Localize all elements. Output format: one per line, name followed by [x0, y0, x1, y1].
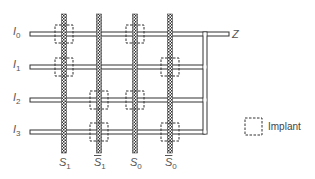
legend-label: Implant — [268, 121, 301, 132]
output-bus-line — [203, 32, 207, 134]
select-label-0: S1 — [59, 157, 71, 171]
legend-implant-icon — [245, 118, 262, 135]
select-line-0 — [62, 14, 67, 153]
input-label-0: I0 — [13, 26, 21, 40]
output-label-z: Z — [232, 29, 239, 40]
select-line-2 — [133, 14, 138, 153]
input-line-2 — [30, 98, 205, 102]
multiplexer-diagram — [0, 0, 315, 179]
input-label-3: I3 — [13, 124, 21, 138]
select-line-3 — [168, 14, 173, 153]
output-bus — [203, 32, 207, 134]
select-label-2: S0 — [130, 157, 142, 171]
implants — [55, 25, 179, 141]
input-label-1: I1 — [13, 59, 21, 73]
select-label-3: S0 — [165, 157, 177, 171]
input-lines — [30, 32, 229, 134]
input-line-0 — [30, 32, 229, 36]
select-label-1: S1 — [94, 157, 106, 171]
input-label-2: I2 — [13, 92, 21, 106]
select-line-1 — [97, 14, 102, 153]
